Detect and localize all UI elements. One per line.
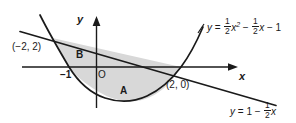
line-eq-op: −	[255, 106, 261, 117]
y-axis-label: y	[77, 14, 83, 25]
origin-label: O	[98, 70, 106, 80]
line-eq-fraction: 12	[264, 101, 271, 119]
x-tick-label-neg1: −1	[60, 70, 71, 80]
parabola-eq-op-2: −	[267, 22, 273, 33]
parabola-eq-fraction-2: 12	[252, 17, 259, 35]
shaded-region-b	[54, 38, 182, 67]
y-axis-arrowhead	[93, 16, 101, 26]
line-equation-label: y = 1 − 12x	[230, 101, 276, 119]
parabola-eq-constant: 1	[276, 22, 282, 33]
region-label-b: B	[76, 50, 83, 60]
graph-figure: y x O −1 (−2, 2) (2, 0) A B y = 12x2 − 1…	[0, 0, 296, 123]
parabola-eq-equals: =	[215, 22, 221, 33]
parabola-eq-fraction-1: 12	[224, 17, 231, 35]
point-label-2-0: (2, 0)	[166, 80, 189, 90]
x-axis-label: x	[239, 71, 245, 82]
region-label-a: A	[120, 86, 127, 96]
point-label-minus2-2: (−2, 2)	[12, 42, 41, 52]
line-eq-var: x	[271, 106, 276, 117]
line-eq-equals: =	[238, 106, 244, 117]
x-axis-arrowhead	[228, 63, 238, 71]
parabola-equation-label: y = 12x2 − 12x − 1	[207, 17, 281, 35]
parabola-eq-op-1: −	[243, 22, 249, 33]
